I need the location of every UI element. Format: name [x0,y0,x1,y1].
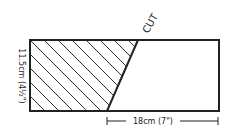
cut-label: CUT [140,11,160,35]
height-label: 11.5cm (4½") [17,48,26,103]
width-label: 18cm (7") [133,117,173,126]
cut-line [107,40,138,111]
cut-diagram: CUT 11.5cm (4½") 18cm (7") [0,0,229,133]
